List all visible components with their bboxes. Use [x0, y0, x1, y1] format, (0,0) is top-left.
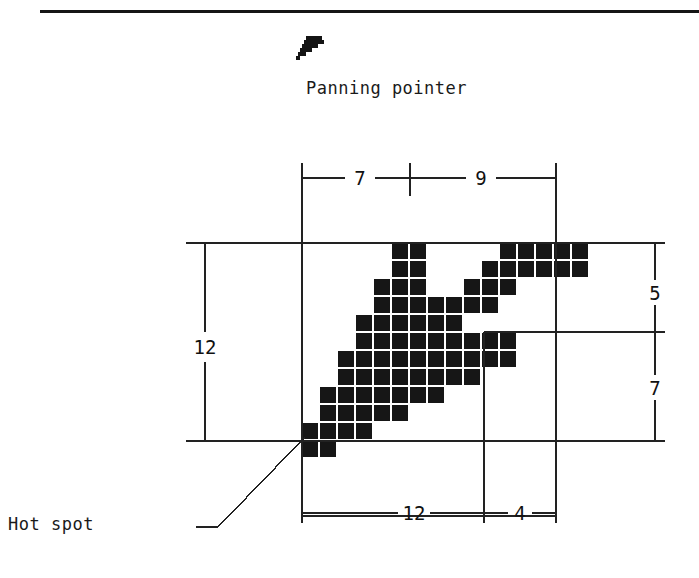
dim-right-bottom: 7	[649, 377, 660, 399]
dim-bottom-right: 4	[514, 502, 525, 524]
pixel-cell	[464, 351, 480, 367]
pixel-cell	[410, 369, 426, 385]
pixel-cell	[356, 405, 372, 421]
pixel-cell	[374, 387, 390, 403]
hot-spot-cell	[302, 441, 318, 457]
pixel-cell	[446, 315, 462, 331]
pixel-cell	[392, 405, 408, 421]
figure-canvas: Panning pointer Hot spot	[0, 0, 699, 578]
pixel-cell	[572, 243, 588, 259]
pixel-cell	[464, 369, 480, 385]
pixel-cell	[446, 369, 462, 385]
dim-top-left: 7	[354, 167, 365, 189]
pixel-cell	[500, 243, 516, 259]
pixel-cell	[320, 441, 336, 457]
pixel-cell	[536, 261, 552, 277]
pixel-cell	[410, 243, 426, 259]
pixel-cell	[320, 387, 336, 403]
pixel-cell	[446, 351, 462, 367]
pixel-cell	[392, 351, 408, 367]
pixel-cell	[356, 315, 372, 331]
cursor-bitmap-diagram: 7 9 12 5	[0, 0, 699, 578]
pixel-cell	[464, 297, 480, 313]
dim-left: 12	[194, 336, 217, 358]
pixel-cell	[464, 333, 480, 349]
pixel-cell	[356, 369, 372, 385]
pixel-cell	[374, 369, 390, 385]
pixel-cell	[482, 261, 498, 277]
pixel-cell	[338, 405, 354, 421]
pixel-cell	[374, 297, 390, 313]
pixel-cell	[428, 315, 444, 331]
pixel-cell	[374, 333, 390, 349]
pixel-cell	[374, 351, 390, 367]
dim-right-top: 5	[649, 282, 660, 304]
pixel-cell	[428, 387, 444, 403]
pixel-cell	[428, 369, 444, 385]
pixel-cell	[392, 279, 408, 295]
hot-spot-leader-line	[196, 437, 305, 527]
pixel-cell	[392, 387, 408, 403]
pixel-cell	[356, 423, 372, 439]
pixel-cell	[410, 279, 426, 295]
pixel-cell	[536, 243, 552, 259]
pixel-cell	[302, 423, 318, 439]
pixel-cell	[446, 333, 462, 349]
pixel-cell	[482, 279, 498, 295]
dim-top-right: 9	[475, 167, 486, 189]
pixel-cell	[356, 333, 372, 349]
pixel-cell	[410, 351, 426, 367]
pixel-cell	[500, 279, 516, 295]
pixel-cell	[410, 297, 426, 313]
pixel-cell	[356, 351, 372, 367]
pixel-cell	[392, 261, 408, 277]
pixel-cell	[392, 315, 408, 331]
pixel-cell	[410, 333, 426, 349]
pixel-cell	[410, 387, 426, 403]
pixel-cell	[374, 279, 390, 295]
pixel-cell	[320, 423, 336, 439]
pixel-cell	[392, 369, 408, 385]
pixel-cell	[500, 351, 516, 367]
pixel-cell	[338, 387, 354, 403]
pixel-cell	[500, 333, 516, 349]
pixel-cell	[500, 261, 516, 277]
pixel-cell	[428, 351, 444, 367]
pixel-cell	[338, 423, 354, 439]
pixel-cell	[428, 333, 444, 349]
pixel-cell	[518, 261, 534, 277]
pixel-cell	[482, 297, 498, 313]
pixel-cell	[410, 315, 426, 331]
pixel-cell	[338, 369, 354, 385]
pixel-cell	[518, 243, 534, 259]
pixel-cell	[356, 387, 372, 403]
pixel-cell	[410, 261, 426, 277]
pixel-cell	[392, 243, 408, 259]
pixel-cell	[320, 405, 336, 421]
pixel-cell	[428, 297, 444, 313]
pixel-cell	[374, 315, 390, 331]
dim-bottom-left: 12	[403, 502, 426, 524]
pixel-cell	[374, 405, 390, 421]
pixel-grid	[302, 243, 588, 457]
pixel-cell	[446, 297, 462, 313]
pixel-cell	[338, 351, 354, 367]
pixel-cell	[392, 297, 408, 313]
pixel-cell	[464, 279, 480, 295]
pixel-cell	[392, 333, 408, 349]
pixel-cell	[572, 261, 588, 277]
